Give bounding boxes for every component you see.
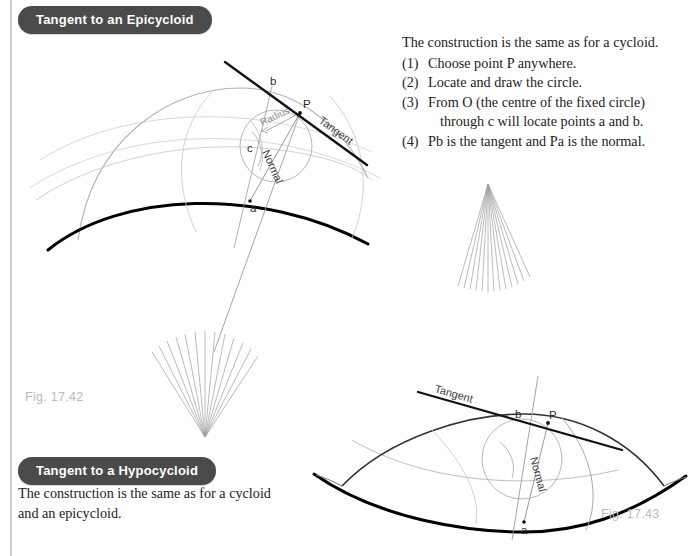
epicycloid-normal-aux-line: [234, 86, 272, 248]
instruction-text-3: From O (the centre of the fixed circle): [428, 94, 645, 110]
hypocycloid-end-arc-right: [664, 477, 686, 486]
instructions-list: (1) Choose point P anywhere. (2) Locate …: [402, 54, 687, 152]
hypocycloid-description-line1: The construction is the same as for a cy…: [18, 484, 318, 504]
hypocycloid-label-tangent: Tangent: [433, 382, 474, 404]
epicycloid-label-normal: Normal: [260, 148, 285, 185]
epicycloid-radius-line: [266, 113, 300, 131]
instructions-block: The construction is the same as for a cy…: [402, 33, 687, 152]
epicycloid-arc-mark-c2: [250, 120, 263, 170]
hypocycloid-rolling-circle: [482, 419, 562, 499]
instructions-lead: The construction is the same as for a cy…: [402, 33, 687, 53]
hypocycloid-guide-curve: [352, 440, 618, 481]
hypocycloid-label-a: a: [521, 524, 528, 536]
epicycloid-chord-pa: [250, 113, 300, 201]
epicycloid-aux-arc-right: [330, 96, 363, 238]
epicycloid-label-a: a: [250, 202, 257, 214]
hypocycloid-fan-lines: [458, 184, 530, 292]
epicycloid-guide-curve: [36, 147, 372, 200]
instruction-item-1: (1) Choose point P anywhere.: [402, 54, 687, 74]
instruction-text-2: Locate and draw the circle.: [428, 74, 582, 90]
epicycloid-fixed-circle-arcs: [30, 117, 380, 188]
epicycloid-point-a: [248, 199, 252, 203]
hypocycloid-chord-pa: [524, 423, 548, 522]
hypocycloid-base-arc: [314, 474, 686, 532]
epicycloid-fan-lines: [152, 331, 258, 437]
hypocycloid-label-P: P: [549, 409, 557, 421]
epicycloid-normal-line: [214, 113, 300, 352]
epicycloid-label-b: b: [270, 75, 276, 87]
instruction-number-2: (2): [402, 73, 419, 93]
hypocycloid-end-arc-left: [316, 475, 342, 486]
instruction-item-4: (4) Pb is the tangent and Pa is the norm…: [402, 132, 687, 152]
epicycloid-rolling-circle: [240, 110, 312, 182]
figure-caption-hypocycloid: Fig. 17.43: [601, 507, 660, 521]
instruction-number-1: (1): [402, 54, 419, 74]
instruction-text-3-cont: through c will locate points a and b.: [428, 112, 687, 132]
epicycloid-aux-arc-left: [181, 92, 212, 232]
instruction-number-4: (4): [402, 132, 419, 152]
hypocycloid-arc-mark: [500, 442, 514, 478]
epicycloid-label-c: c: [247, 142, 253, 154]
hypocycloid-aux-arc-a: [432, 430, 477, 524]
instruction-number-3: (3): [402, 93, 419, 113]
epicycloid-curve: [78, 88, 368, 240]
figure-caption-epicycloid: Fig. 17.42: [25, 390, 84, 404]
hypocycloid-point-a: [522, 520, 526, 524]
hypocycloid-point-p: [546, 421, 550, 425]
epicycloid-label-radius: Radius: [258, 105, 291, 128]
instruction-item-2: (2) Locate and draw the circle.: [402, 73, 687, 93]
hypocycloid-description-line2: and an epicycloid.: [18, 504, 318, 524]
page-edge-rule: [10, 0, 12, 556]
instruction-text-1: Choose point P anywhere.: [428, 55, 576, 71]
heading-tangent-to-a-hypocycloid: Tangent to a Hypocycloid: [18, 457, 216, 485]
hypocycloid-normal-line: [512, 376, 538, 540]
instruction-text-4: Pb is the tangent and Pa is the normal.: [428, 133, 645, 149]
epicycloid-arc-mark-c: [252, 132, 261, 166]
epicycloid-label-P: P: [303, 98, 311, 110]
hypocycloid-label-normal: Normal: [528, 455, 549, 492]
page-canvas: b P c a Radius Normal Tangent: [0, 0, 692, 556]
epicycloid-point-p: [298, 111, 302, 115]
epicycloid-base-arc: [48, 203, 368, 250]
heading-tangent-to-an-epicycloid: Tangent to an Epicycloid: [18, 6, 212, 34]
epicycloid-radius-arrowhead: [262, 127, 268, 133]
epicycloid-label-tangent: Tangent: [317, 114, 356, 147]
hypocycloid-tangent-line[interactable]: [418, 392, 622, 450]
hypocycloid-label-b: b: [515, 408, 521, 420]
hypocycloid-curve-upper: [342, 414, 664, 486]
hypocycloid-aux-arc-b: [562, 418, 593, 530]
epicycloid-tangent-line[interactable]: [225, 62, 367, 165]
hypocycloid-description: The construction is the same as for a cy…: [18, 484, 318, 523]
instruction-item-3: (3) From O (the centre of the fixed circ…: [402, 93, 687, 132]
